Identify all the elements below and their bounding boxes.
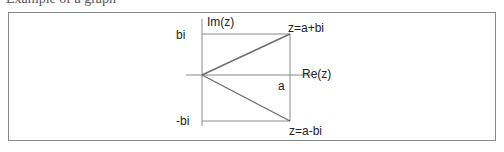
z-plus-label: z=a+bi xyxy=(288,22,324,34)
vector-z-plus xyxy=(202,34,290,75)
neg-bi-label: -bi xyxy=(176,115,189,127)
vector-z-minus xyxy=(202,75,290,121)
bi-label: bi xyxy=(176,29,185,41)
imaginary-axis-label: Im(z) xyxy=(207,16,234,28)
complex-plane-diagram xyxy=(0,0,504,152)
a-label: a xyxy=(278,80,285,92)
real-axis-label: Re(z) xyxy=(302,68,331,80)
z-minus-label: z=a-bi xyxy=(289,125,322,137)
